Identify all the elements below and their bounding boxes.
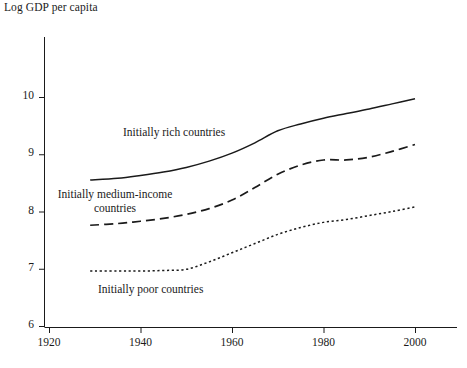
annotation-medium-line1: Initially medium-income [58,188,173,200]
x-tick-label: 1940 [116,336,166,348]
y-tick-label: 9 [8,146,34,158]
x-tick-label: 2000 [390,336,440,348]
annotation-poor: Initially poor countries [98,283,203,297]
annotation-rich: Initially rich countries [123,126,225,140]
x-axis-ticks [50,328,416,334]
x-tick-label: 1920 [24,336,74,348]
plot-area [0,0,467,368]
y-tick-label: 10 [8,89,34,101]
y-tick-label: 8 [8,204,34,216]
y-tick-label: 6 [8,318,34,330]
x-tick-label: 1960 [207,336,257,348]
annotation-medium: Initially medium-income countries [40,188,190,215]
series-line-poor [90,207,415,271]
annotation-medium-line2: countries [94,202,136,214]
y-tick-label: 7 [8,261,34,273]
x-tick-label: 1980 [299,336,349,348]
chart-canvas: Log GDP per capita 678910 19201940196019… [0,0,467,368]
